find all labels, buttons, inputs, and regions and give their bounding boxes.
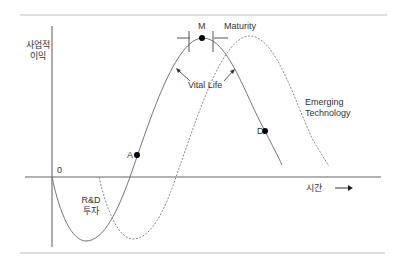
y-axis-label-line1: 사업적 <box>22 40 54 51</box>
y-axis-label-line2: 이익 <box>22 51 54 62</box>
rnd-label-line2: 투자 <box>78 206 104 217</box>
emerging-technology-label: Emerging Technology <box>305 97 351 119</box>
peak-m-label: M <box>198 21 206 32</box>
emerging-label-line1: Emerging <box>305 97 351 108</box>
rnd-label-line1: R&D <box>78 195 104 206</box>
y-axis-label: 사업적 이익 <box>22 40 54 62</box>
emerging-technology-curve <box>99 36 329 239</box>
technology-lifecycle-diagram: 사업적 이익 0 시간 M Maturity Vital Life A D R&… <box>0 0 404 265</box>
point-m-dot <box>199 35 205 41</box>
point-d-label: D <box>257 126 264 137</box>
rnd-investment-label: R&D 투자 <box>78 195 104 217</box>
x-axis-label: 시간 <box>306 183 322 194</box>
origin-label: 0 <box>57 165 62 176</box>
point-a-label: A <box>127 150 133 161</box>
vital-life-label: Vital Life <box>188 80 222 91</box>
diagram-canvas <box>0 0 404 265</box>
time-arrowhead-icon <box>348 185 353 191</box>
point-a-dot <box>134 152 140 158</box>
emerging-label-line2: Technology <box>305 108 351 119</box>
maturity-label: Maturity <box>224 21 256 32</box>
